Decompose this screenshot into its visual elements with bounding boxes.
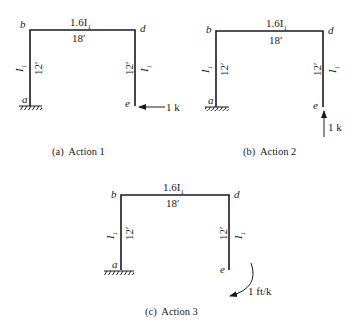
- fixed-support-icon: [104, 271, 134, 275]
- node-label-d: d: [328, 24, 334, 36]
- node-label-e: e: [220, 263, 225, 275]
- load-label: 1 k: [166, 101, 180, 113]
- load-label: 1 ft/k: [248, 285, 272, 297]
- caption-c: (c) Action 3: [145, 306, 198, 318]
- svg-text:I1: I1: [199, 66, 214, 74]
- node-label-a: a: [22, 93, 28, 105]
- left-column-length-label: 12′: [32, 62, 44, 75]
- beam-length-label: 18′: [269, 34, 282, 46]
- svg-text:I1: I1: [232, 232, 247, 240]
- left-column-inertia-label: I1: [13, 65, 28, 73]
- right-column-inertia-label: I1: [326, 66, 341, 74]
- beam-inertia-label: 1.6I1: [266, 17, 287, 32]
- node-label-a: a: [112, 258, 118, 270]
- figure-a: b d a e 1.6I1 18′ I1 12′ 12′ I1 1 k (a) …: [13, 16, 180, 158]
- node-label-d: d: [140, 22, 146, 34]
- beam-inertia-label: 1.6I1: [70, 16, 91, 31]
- load-label: 1 k: [328, 121, 342, 133]
- node-label-a: a: [208, 94, 214, 106]
- svg-text:1.6I1: 1.6I1: [70, 16, 91, 31]
- svg-text:1.6I1: 1.6I1: [163, 181, 184, 196]
- node-label-e: e: [313, 99, 318, 111]
- frame-diagrams: b d a e 1.6I1 18′ I1 12′ 12′ I1 1 k (a) …: [0, 0, 351, 325]
- beam-length-label: 18′: [166, 197, 179, 209]
- caption-a: (a) Action 1: [52, 146, 105, 158]
- left-column-length-label: 12′: [218, 63, 230, 76]
- right-column-length-label: 12′: [311, 63, 323, 76]
- right-column-inertia-label: I1: [138, 65, 153, 73]
- right-column-length-label: 12′: [217, 227, 229, 240]
- left-column-inertia-label: I1: [199, 66, 214, 74]
- left-column-inertia-label: I1: [104, 232, 119, 240]
- fixed-support-icon: [19, 106, 42, 110]
- beam-length-label: 18′: [72, 32, 85, 44]
- figure-c: b d a e 1.6I1 18′ I1 12′ 12′ I1 1 ft/k (…: [104, 181, 272, 318]
- figure-b: b d a e 1.6I1 18′ I1 12′ 12′ I1 1 k (b) …: [199, 17, 342, 158]
- node-label-b: b: [111, 188, 117, 200]
- svg-text:I1: I1: [13, 65, 28, 73]
- svg-text:I1: I1: [326, 66, 341, 74]
- left-column-length-label: 12′: [123, 227, 135, 240]
- right-column-length-label: 12′: [123, 62, 135, 75]
- svg-text:1.6I1: 1.6I1: [266, 17, 287, 32]
- svg-text:I1: I1: [104, 232, 119, 240]
- right-column-inertia-label: I1: [232, 232, 247, 240]
- svg-text:I1: I1: [138, 65, 153, 73]
- node-label-d: d: [234, 188, 240, 200]
- fixed-support-icon: [205, 107, 229, 111]
- node-label-b: b: [206, 23, 212, 35]
- node-label-e: e: [125, 97, 130, 109]
- node-label-b: b: [20, 18, 26, 30]
- caption-b: (b) Action 2: [243, 146, 296, 158]
- beam-inertia-label: 1.6I1: [163, 181, 184, 196]
